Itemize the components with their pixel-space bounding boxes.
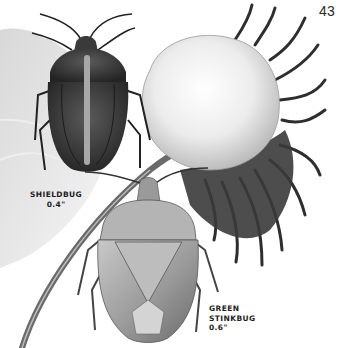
green-stinkbug-name-line1: GREEN: [209, 304, 256, 314]
green-stinkbug-name-line2: STINKBUG: [209, 314, 256, 324]
shieldbug-caption: SHIELDBUG 0.4": [30, 190, 82, 209]
green-stinkbug-size: 0.6": [209, 323, 256, 333]
page-number: 43: [319, 3, 335, 19]
cotton-boll: [142, 35, 279, 170]
shieldbug-size: 0.4": [30, 200, 82, 210]
field-guide-page: 43 SHIELDBUG 0.4" GREEN STINKBUG 0.6": [0, 0, 342, 348]
green-stinkbug-caption: GREEN STINKBUG 0.6": [209, 304, 256, 333]
illustration-artwork: [0, 0, 342, 348]
shieldbug-name: SHIELDBUG: [30, 190, 82, 200]
